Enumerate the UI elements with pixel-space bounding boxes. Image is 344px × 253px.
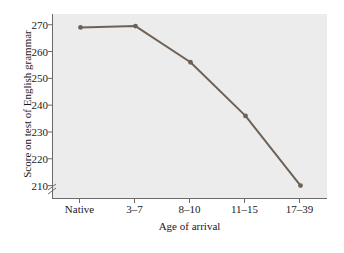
y-axis-tick-label: 230 [8, 127, 48, 137]
data-point-marker [133, 24, 138, 29]
x-axis-tick-label: 11–15 [231, 203, 258, 215]
y-axis-tick-label: 260 [8, 47, 48, 57]
y-axis-tick-label: 270 [8, 20, 48, 30]
data-point-marker [298, 183, 303, 188]
y-axis-tick-labels: 270260250240230220210 [0, 0, 48, 253]
x-axis-title: Age of arrival [52, 220, 327, 232]
data-point-marker [188, 60, 193, 65]
series-line [81, 26, 301, 186]
y-axis-tick-label: 220 [8, 154, 48, 164]
x-axis-tick-label: Native [65, 203, 94, 215]
y-axis-tick-label: 210 [8, 181, 48, 191]
data-point-marker [78, 25, 83, 30]
x-axis-tick-label: 8–10 [179, 203, 201, 215]
x-axis-tick-labels: Native3–78–1011–1517–39 [52, 203, 327, 219]
y-axis-tick-label: 240 [8, 100, 48, 110]
chart-figure: Score on test of English grammar 2702602… [0, 0, 344, 253]
plot-area [52, 14, 327, 199]
x-axis-tick-label: 3–7 [126, 203, 143, 215]
data-series-line [81, 26, 301, 186]
y-axis-tick-label: 250 [8, 73, 48, 83]
plot-svg [53, 14, 328, 199]
data-point-markers [78, 24, 303, 188]
data-point-marker [243, 113, 248, 118]
x-axis-tick-label: 17–39 [286, 203, 314, 215]
